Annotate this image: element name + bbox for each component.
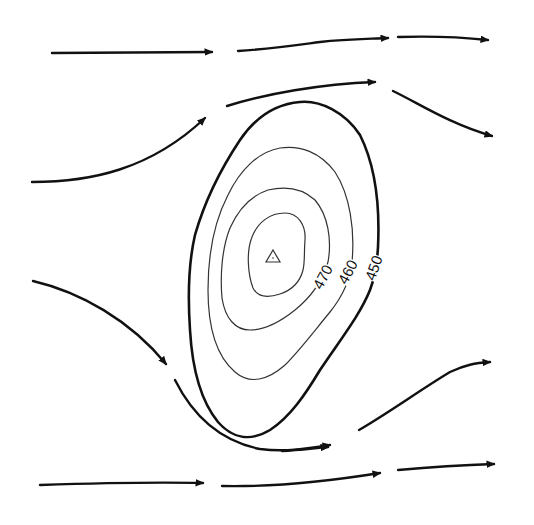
contour-470 — [221, 188, 329, 330]
streamline-arrow — [222, 473, 380, 486]
streamline-arrow — [393, 91, 492, 136]
streamline-arrow — [398, 37, 488, 40]
contour-label-460: 460 — [334, 257, 361, 287]
contour-label-470-group: 470 — [309, 261, 336, 292]
streamline-arrow — [52, 52, 212, 53]
streamline-arrow — [40, 483, 203, 485]
center-dot — [272, 257, 274, 259]
isobar-contours: 470 460 450 — [189, 102, 386, 437]
contour-diagram: 470 460 450 — [0, 0, 534, 525]
streamline-arrow — [32, 118, 205, 182]
triangle-icon — [266, 250, 280, 262]
streamline-arrow — [398, 464, 494, 470]
contour-label-450-group: 450 — [361, 253, 386, 283]
streamline-arrow — [33, 281, 166, 364]
contour-inner — [248, 213, 305, 296]
streamlines — [32, 37, 494, 486]
contour-label-470: 470 — [309, 262, 336, 292]
contour-460 — [208, 147, 353, 379]
contour-label-460-group: 460 — [334, 256, 361, 287]
streamline-arrow — [238, 38, 388, 51]
streamline-arrow — [359, 362, 490, 430]
high-center-marker — [266, 250, 280, 262]
